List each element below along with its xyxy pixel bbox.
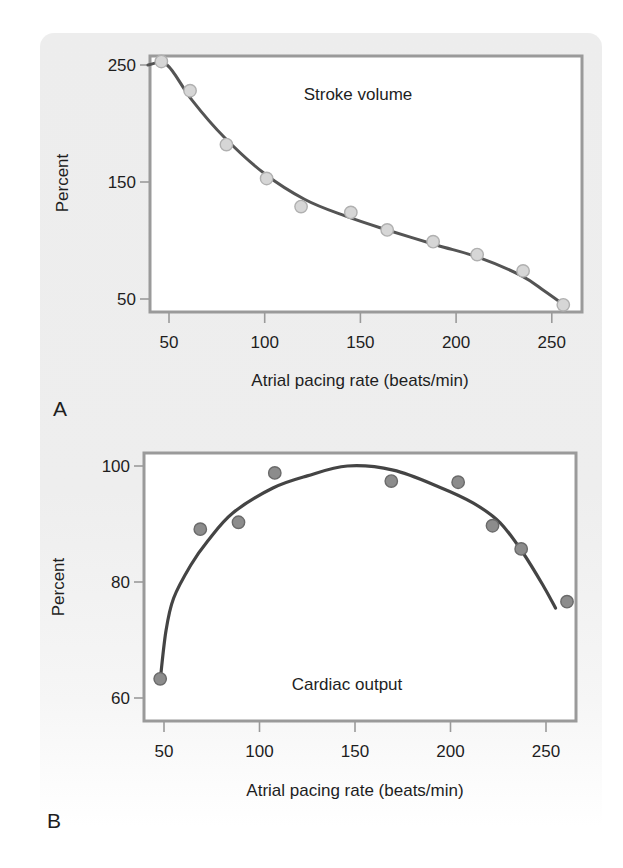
- data-point: [486, 520, 498, 532]
- data-point: [220, 138, 232, 150]
- data-point: [295, 200, 307, 212]
- data-point: [154, 673, 166, 685]
- x-tick-label: 250: [538, 333, 566, 352]
- panel-letter-b: B: [47, 809, 61, 832]
- x-tick-label: 100: [245, 742, 273, 761]
- x-tick-label: 200: [442, 333, 470, 352]
- data-point: [194, 523, 206, 535]
- x-tick-label: 50: [160, 333, 179, 352]
- x-tick-label: 50: [155, 742, 174, 761]
- y-axis-title-b: Percent: [49, 557, 68, 616]
- data-point: [184, 85, 196, 97]
- series-label-cardiac-output: Cardiac output: [292, 675, 403, 694]
- x-axis-a: 50100150200250: [160, 313, 566, 352]
- y-tick-label: 250: [108, 56, 136, 75]
- y-axis-a: 50150250: [108, 56, 149, 309]
- x-axis-title-a: Atrial pacing rate (beats/min): [251, 371, 468, 390]
- data-point: [260, 172, 272, 184]
- y-axis-b: 6080100: [102, 457, 143, 708]
- data-point: [515, 543, 527, 555]
- x-tick-label: 100: [251, 333, 279, 352]
- x-tick-label: 200: [436, 742, 464, 761]
- data-point: [232, 516, 244, 528]
- data-point: [345, 206, 357, 218]
- x-axis-title-b: Atrial pacing rate (beats/min): [246, 781, 463, 800]
- y-tick-label: 80: [111, 573, 130, 592]
- data-point: [561, 596, 573, 608]
- x-tick-label: 150: [346, 333, 374, 352]
- x-axis-b: 50100150200250: [155, 722, 561, 761]
- y-tick-label: 50: [117, 290, 136, 309]
- data-point: [517, 265, 529, 277]
- data-point: [452, 476, 464, 488]
- data-point: [381, 224, 393, 236]
- y-tick-label: 150: [108, 173, 136, 192]
- panel-letter-a: A: [53, 397, 67, 420]
- data-point: [269, 467, 281, 479]
- data-point: [471, 248, 483, 260]
- y-tick-label: 100: [102, 457, 130, 476]
- x-tick-label: 250: [532, 742, 560, 761]
- chart-panel-a: 50150250 50100150200250 Percent Atrial p…: [53, 55, 582, 420]
- figure: 50150250 50100150200250 Percent Atrial p…: [0, 0, 623, 868]
- data-point: [557, 299, 569, 311]
- data-point: [427, 235, 439, 247]
- data-point: [385, 475, 397, 487]
- data-point: [155, 55, 167, 67]
- y-axis-title-a: Percent: [53, 153, 72, 212]
- x-tick-label: 150: [341, 742, 369, 761]
- series-label-stroke-volume: Stroke volume: [304, 85, 413, 104]
- chart-panel-b: 6080100 50100150200250 Percent Atrial pa…: [47, 453, 576, 832]
- y-tick-label: 60: [111, 689, 130, 708]
